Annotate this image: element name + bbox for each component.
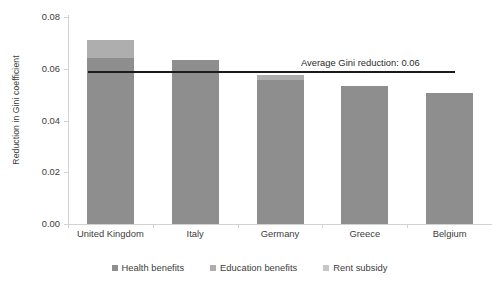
average-line [88,71,455,73]
legend-swatch-icon [112,265,118,271]
x-axis-line [68,224,492,225]
legend-item-education-benefits[interactable]: Education benefits [210,262,297,273]
y-tick-label-1: 0.06 [24,63,60,74]
y-axis-tick [64,172,68,173]
y-axis-tick [64,17,68,18]
bar-segment-health-benefits[interactable] [172,60,219,224]
bar-germany[interactable] [257,17,304,224]
average-line-label: Average Gini reduction: 0.06 [301,57,420,68]
bar-segment-health-benefits[interactable] [87,58,134,224]
x-category-label: Belgium [390,228,499,239]
y-tick-label-2: 0.04 [24,115,60,126]
x-axis-tick [238,224,239,228]
legend-label: Health benefits [122,262,185,273]
x-axis-tick [68,224,69,228]
y-tick-label-0: 0.08 [24,11,60,22]
legend-label: Education benefits [220,262,297,273]
bar-segment-health-benefits[interactable] [257,80,304,224]
y-axis-tick [64,121,68,122]
x-axis-tick [153,224,154,228]
bar-segment-education-benefits[interactable] [87,40,134,58]
legend-swatch-icon [323,265,329,271]
y-axis-labels: 0.08 0.06 0.04 0.02 0.00 [0,0,499,286]
x-axis-tick [407,224,408,228]
x-axis-tick [322,224,323,228]
bar-segment-health-benefits[interactable] [341,86,388,224]
y-axis-tick [64,69,68,70]
gini-reduction-chart: Reduction in Gini coefficient 0.08 0.06 … [0,0,499,286]
legend-item-rent-subsidy[interactable]: Rent subsidy [323,262,387,273]
y-axis-title: Reduction in Gini coefficient [11,10,21,210]
bar-segment-education-benefits[interactable] [257,75,304,80]
y-axis-line [68,15,69,226]
y-tick-label-3: 0.02 [24,166,60,177]
bar-greece[interactable] [341,17,388,224]
legend: Health benefitsEducation benefitsRent su… [0,262,499,273]
bar-segment-health-benefits[interactable] [426,93,473,224]
bar-belgium[interactable] [426,17,473,224]
legend-swatch-icon [210,265,216,271]
bar-united-kingdom[interactable] [87,17,134,224]
legend-label: Rent subsidy [333,262,387,273]
bar-italy[interactable] [172,17,219,224]
legend-item-health-benefits[interactable]: Health benefits [112,262,185,273]
